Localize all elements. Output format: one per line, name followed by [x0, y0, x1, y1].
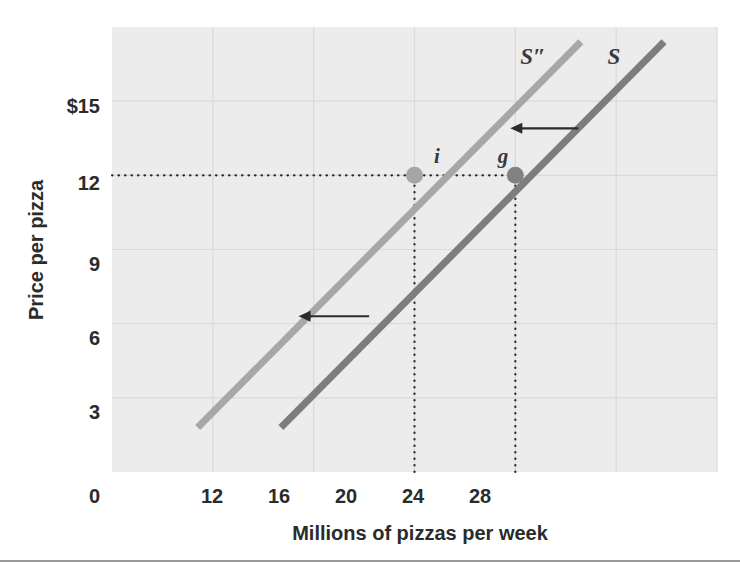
- y-tick-label-3: 3: [89, 401, 100, 423]
- x-tick-label-20: 20: [335, 485, 357, 507]
- point-marker-g: [507, 167, 524, 184]
- x-axis-title: Millions of pizzas per week: [292, 522, 548, 544]
- y-tick-label-15: $15: [67, 95, 100, 117]
- bottom-divider: [0, 560, 740, 562]
- y-tick-label-12: 12: [78, 172, 100, 194]
- x-tick-label-12: 12: [201, 485, 223, 507]
- y-tick-label-0: 0: [89, 485, 100, 507]
- point-label-g: g: [497, 144, 509, 168]
- chart-canvas: $15 12 9 6 3 0 12 16 20 24 28 Millions o…: [0, 0, 740, 572]
- y-tick-label-9: 9: [89, 253, 100, 275]
- y-axis-title: Price per pizza: [25, 179, 47, 320]
- point-label-i: i: [434, 144, 440, 168]
- y-tick-label-6: 6: [89, 327, 100, 349]
- curve-label-s: S: [608, 44, 621, 69]
- x-tick-label-24: 24: [402, 485, 425, 507]
- point-marker-i: [406, 167, 423, 184]
- supply-curve-figure: $15 12 9 6 3 0 12 16 20 24 28 Millions o…: [0, 0, 740, 572]
- x-tick-label-28: 28: [469, 485, 491, 507]
- x-tick-label-16: 16: [268, 485, 290, 507]
- curve-label-s-double-prime: S″: [520, 44, 546, 69]
